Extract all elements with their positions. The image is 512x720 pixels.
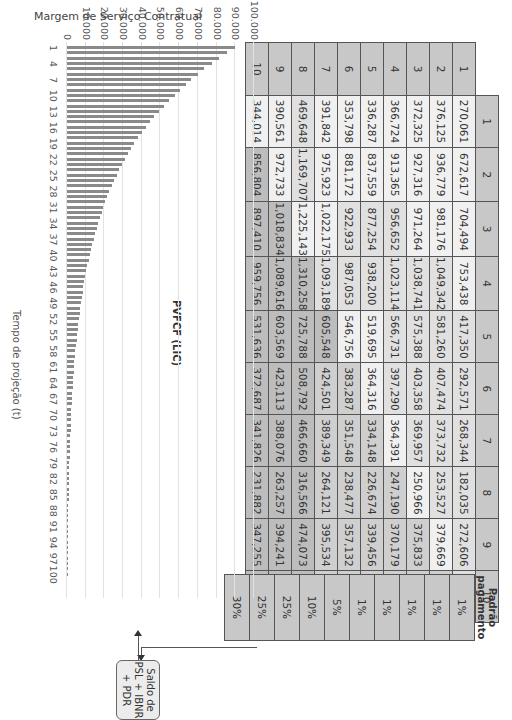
- table-cell: 407,474: [430, 363, 453, 415]
- bar: [67, 147, 131, 150]
- table-row: 6353,798881,172922,933987,053546,756383,…: [338, 43, 361, 623]
- table-cell: 987,053: [338, 256, 361, 310]
- table-cell: 603,569: [269, 311, 292, 363]
- bar: [67, 493, 69, 496]
- table-cell: 927,316: [407, 148, 430, 202]
- table-row: 9390,561972,7331,018,8341,089,616603,569…: [269, 43, 292, 623]
- row-header: 3: [407, 43, 430, 96]
- table-cell: 357,132: [338, 519, 361, 571]
- table-cell: 469,648: [292, 96, 315, 148]
- bar: [67, 333, 77, 336]
- bar: [67, 317, 79, 320]
- bar: [67, 285, 83, 288]
- column-header: 1: [476, 96, 499, 148]
- bar: [67, 551, 68, 554]
- bar: [67, 174, 117, 177]
- bar: [67, 89, 180, 92]
- table-row: 5336,287837,559877,254938,200519,695364,…: [361, 43, 384, 623]
- x-tick-label: 100: [48, 565, 59, 585]
- table-cell: 395,534: [315, 519, 338, 571]
- table-cell: 922,933: [338, 202, 361, 256]
- table-cell: 397,290: [384, 363, 407, 415]
- payment-pattern-header: Padrão pagamento: [475, 575, 500, 641]
- bar: [67, 200, 105, 203]
- bar: [67, 429, 71, 432]
- bar: [67, 392, 72, 395]
- table-corner: [476, 43, 499, 96]
- payment-pattern-cell: 1%: [350, 575, 375, 641]
- bar: [67, 115, 154, 118]
- table-cell: 508,792: [292, 363, 315, 415]
- table-cell: 913,365: [384, 148, 407, 202]
- table-cell: 391,842: [315, 96, 338, 148]
- table-cell: 704,494: [453, 202, 476, 256]
- table-cell: 370,179: [384, 519, 407, 571]
- bar: [67, 57, 219, 60]
- bar: [67, 275, 85, 278]
- bar: [67, 413, 71, 416]
- bar: [67, 477, 69, 480]
- table-cell: 376,125: [430, 96, 453, 148]
- bar: [67, 78, 191, 81]
- bar: [67, 328, 78, 331]
- bar: [67, 179, 114, 182]
- row-header: 7: [315, 43, 338, 96]
- table-cell: 182,035: [453, 467, 476, 519]
- bar: [67, 136, 138, 139]
- gridline: [253, 42, 254, 598]
- bar: [67, 424, 71, 427]
- bar: [67, 349, 75, 352]
- table-cell: 881,172: [338, 148, 361, 202]
- column-header: 4: [476, 256, 499, 310]
- bar: [67, 307, 80, 310]
- bar: [67, 397, 72, 400]
- bar: [67, 280, 84, 283]
- rotated-page: 12345678910 1270,061672,617704,494753,43…: [0, 0, 512, 720]
- row-header: 5: [361, 43, 384, 96]
- table-cell: 263,257: [269, 467, 292, 519]
- table-cell: 336,287: [361, 96, 384, 148]
- table-cell: 546,756: [338, 311, 361, 363]
- table-cell: 1,093,189: [315, 256, 338, 310]
- claims-development-table: 12345678910 1270,061672,617704,494753,43…: [245, 42, 499, 623]
- bar: [67, 371, 74, 374]
- bar: [67, 312, 80, 315]
- gridline: [234, 42, 235, 598]
- payment-pattern-cell: 5%: [325, 575, 350, 641]
- table-cell: 272,606: [453, 519, 476, 571]
- msc-bar-chart: PVFCF (LIC) Tempo de projeção (t) 010.00…: [0, 0, 262, 720]
- column-header: 6: [476, 363, 499, 415]
- bar: [67, 238, 94, 241]
- payment-pattern-table: Padrão pagamento 1%1%1%1%1%5%10%25%25%30…: [224, 574, 499, 641]
- bar: [67, 248, 91, 251]
- bar: [67, 408, 71, 411]
- bar: [67, 131, 142, 134]
- gridline: [197, 42, 198, 598]
- bar: [67, 94, 175, 97]
- table-cell: 366,724: [384, 96, 407, 148]
- table-cell: 389,349: [315, 415, 338, 467]
- row-header: 2: [430, 43, 453, 96]
- bar: [67, 105, 164, 108]
- table-row: 3372,325927,316971,2641,038,741575,38840…: [407, 43, 430, 623]
- table-cell: 339,456: [361, 519, 384, 571]
- table-row: 7391,842975,9231,022,1751,093,189605,548…: [315, 43, 338, 623]
- table-cell: 394,241: [269, 519, 292, 571]
- table-cell: 1,225,143: [292, 202, 315, 256]
- table-cell: 1,023,114: [384, 256, 407, 310]
- table-cell: 1,022,175: [315, 202, 338, 256]
- table-cell: 316,566: [292, 467, 315, 519]
- column-header: 3: [476, 202, 499, 256]
- bar: [67, 62, 212, 65]
- bar: [67, 73, 198, 76]
- bar: [67, 355, 75, 358]
- table-cell: 226,674: [361, 467, 384, 519]
- bar: [67, 541, 68, 544]
- bar: [67, 195, 107, 198]
- table-cell: 474,073: [292, 519, 315, 571]
- table-cell: 390,561: [269, 96, 292, 148]
- table-cell: 956,652: [384, 202, 407, 256]
- bar: [67, 296, 82, 299]
- bar: [67, 567, 68, 570]
- table-cell: 672,617: [453, 148, 476, 202]
